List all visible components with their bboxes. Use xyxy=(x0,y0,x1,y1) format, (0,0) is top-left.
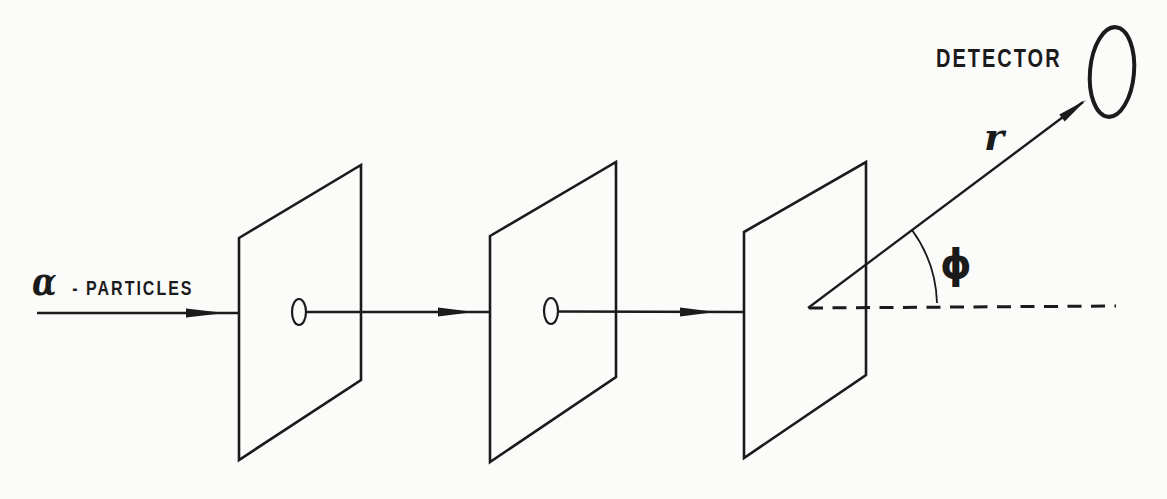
radius-label: r xyxy=(984,114,1007,159)
alpha-particles-label: α - PARTICLES xyxy=(32,257,194,304)
beam-arrowhead-3-icon xyxy=(680,308,716,317)
screen-3-outline xyxy=(744,162,866,458)
screen-1-hole-icon xyxy=(292,299,306,325)
detector-ellipse-icon xyxy=(1086,25,1138,118)
phi-angle-arc xyxy=(912,230,937,303)
beam-arrowhead-2-icon xyxy=(438,308,474,317)
undeflected-beam-dashed-line xyxy=(809,306,1116,308)
detector-label: DETECTOR xyxy=(936,45,1062,73)
detector xyxy=(1086,25,1138,118)
particles-word: - PARTICLES xyxy=(72,277,193,299)
beam-arrow-3 xyxy=(558,308,744,317)
phi-angle-label: ϕ xyxy=(940,241,972,287)
incident-beam-arrow xyxy=(37,309,239,318)
screen-2-hole-icon xyxy=(544,298,558,324)
scanned-figure-page: { "figure": { "ink_color": "#1b1b1b", "p… xyxy=(0,0,1167,499)
scattering-foil-screen xyxy=(744,162,866,458)
incident-beam-arrowhead-icon xyxy=(186,309,225,318)
scattered-ray-arrowhead-icon xyxy=(1059,100,1086,122)
beam-arrow-2 xyxy=(306,308,490,317)
alpha-symbol: α xyxy=(32,257,59,304)
beam-line-3 xyxy=(558,312,744,313)
alpha-scattering-diagram: α - PARTICLES ϕ r DETECTOR xyxy=(0,0,1167,499)
